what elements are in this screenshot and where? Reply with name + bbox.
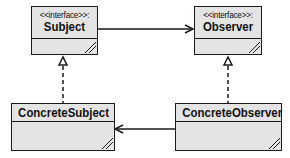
class-box-concrete-subject[interactable]: ConcreteSubject [11, 103, 115, 151]
resize-hatch-icon [266, 135, 280, 149]
realization-concretesubject-subject [59, 57, 67, 103]
class-name: ConcreteObserver [182, 106, 274, 120]
hollow-triangle-icon [224, 57, 232, 65]
resize-hatch-icon [246, 39, 260, 53]
class-header: ConcreteObserver [176, 104, 281, 122]
class-box-concrete-observer[interactable]: ConcreteObserver [175, 103, 282, 151]
class-name: Observer [199, 20, 257, 34]
class-header: <<interface>>: Subject [32, 7, 97, 39]
class-box-observer[interactable]: <<interface>>: Observer [194, 6, 262, 55]
hollow-triangle-icon [59, 57, 67, 65]
class-header: <<interface>>: Observer [195, 7, 261, 39]
class-box-subject[interactable]: <<interface>>: Subject [31, 6, 98, 55]
resize-hatch-icon [99, 135, 113, 149]
resize-hatch-icon [82, 39, 96, 53]
realization-concreteobserver-observer [224, 57, 232, 103]
association-subject-observer [97, 25, 193, 33]
association-concreteobserver-concretesubject [115, 125, 175, 133]
class-name: ConcreteSubject [18, 106, 108, 120]
class-header: ConcreteSubject [12, 104, 114, 122]
class-name: Subject [36, 20, 93, 34]
